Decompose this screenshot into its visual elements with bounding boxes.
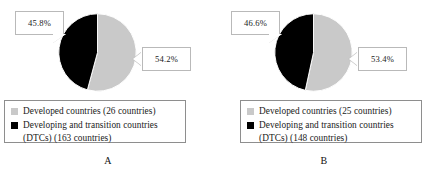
pie-svg-b xyxy=(274,13,353,92)
panel-letter-b: B xyxy=(216,155,432,166)
legend-label-developed-a: Developed countries (26 countries) xyxy=(23,105,156,117)
legend-item-dtc-b: Developing and transition countries (DTC… xyxy=(247,119,416,144)
figure-panel-b: 46.6% 53.4% Developed countries (25 coun… xyxy=(216,0,432,178)
developed-swatch-icon xyxy=(11,108,18,115)
legend-label-dtc-b: Developing and transition countries (DTC… xyxy=(259,119,394,144)
callout-left-a: 45.8% xyxy=(15,11,64,35)
developed-swatch-icon xyxy=(247,108,254,115)
callout-left-b: 46.6% xyxy=(231,11,280,35)
legend-b: Developed countries (25 countries) Devel… xyxy=(240,100,422,143)
callout-left-a-tail xyxy=(53,34,66,43)
callout-left-b-tail xyxy=(269,34,282,43)
pie-chart-a xyxy=(58,13,137,92)
figure-panel-a: 45.8% 54.2% Developed countries (26 coun… xyxy=(0,0,216,178)
callout-right-b: 53.4% xyxy=(358,47,407,71)
callout-right-a: 54.2% xyxy=(142,47,191,71)
legend-a: Developed countries (26 countries) Devel… xyxy=(4,100,186,143)
dtc-swatch-icon xyxy=(11,122,18,129)
pie-svg-a xyxy=(58,13,137,92)
callout-left-a-value: 45.8% xyxy=(28,18,51,28)
legend-item-dtc-a: Developing and transition countries (DTC… xyxy=(11,119,180,144)
legend-item-developed-b: Developed countries (25 countries) xyxy=(247,105,416,117)
pie-slice-dtc-b xyxy=(275,14,314,91)
legend-item-developed-a: Developed countries (26 countries) xyxy=(11,105,180,117)
legend-label-dtc-a: Developing and transition countries (DTC… xyxy=(23,119,158,144)
dtc-swatch-icon xyxy=(247,122,254,129)
callout-right-a-value: 54.2% xyxy=(155,54,178,64)
callout-left-b-value: 46.6% xyxy=(244,18,267,28)
callout-right-b-value: 53.4% xyxy=(371,54,394,64)
pie-chart-b xyxy=(274,13,353,92)
legend-label-developed-b: Developed countries (25 countries) xyxy=(259,105,392,117)
callout-right-a-tail xyxy=(133,52,142,66)
callout-right-b-tail xyxy=(349,52,358,66)
panel-letter-a: A xyxy=(0,155,216,166)
